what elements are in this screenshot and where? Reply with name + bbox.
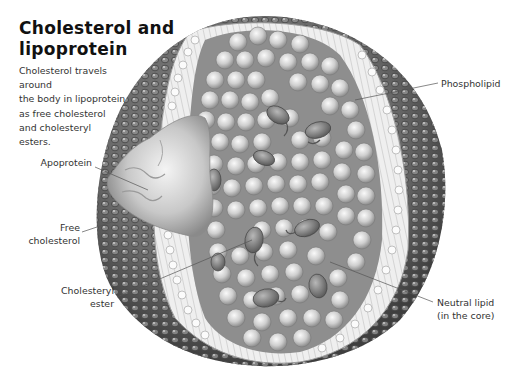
description-line: esters. xyxy=(19,135,139,149)
label-neutral-lipid: Neutral lipid (in the core) xyxy=(437,296,495,322)
page-title: Cholesterol and lipoprotein xyxy=(19,18,179,60)
description-line: Cholesterol travels around xyxy=(19,64,139,92)
description: Cholesterol travels around the body in l… xyxy=(19,64,139,149)
description-line: and cholesteryl xyxy=(19,121,139,135)
label-line: ester xyxy=(24,297,114,310)
label-line: cholesterol xyxy=(8,234,80,247)
description-line: as free cholesterol xyxy=(19,107,139,121)
label-free-cholesterol: Free cholesterol xyxy=(8,221,80,247)
label-line: Cholesteryl xyxy=(24,284,114,297)
label-line: (in the core) xyxy=(437,309,495,322)
label-phospholipid: Phospholipid xyxy=(441,77,501,90)
title-line-1: Cholesterol and xyxy=(19,18,179,39)
label-apoprotein-text: Apoprotein xyxy=(41,157,92,168)
label-line: Free xyxy=(8,221,80,234)
label-apoprotein: Apoprotein xyxy=(26,156,92,169)
label-cholesteryl-ester: Cholesteryl ester xyxy=(24,284,114,310)
label-phospholipid-text: Phospholipid xyxy=(441,78,501,89)
description-line: the body in lipoprotein xyxy=(19,92,139,106)
label-line: Neutral lipid xyxy=(437,296,495,309)
title-line-2: lipoprotein xyxy=(19,39,179,60)
